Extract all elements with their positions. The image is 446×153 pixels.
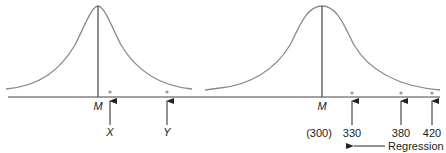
regression-label: Regression xyxy=(388,140,444,152)
left-normal-curve xyxy=(6,6,192,89)
point-330-label: 330 xyxy=(343,127,361,139)
left-mean-label: M xyxy=(93,100,103,112)
right-mean-label: M xyxy=(317,100,327,112)
point-420-label: 420 xyxy=(423,127,441,139)
point-330-dot xyxy=(350,91,353,94)
point-380-label: 380 xyxy=(392,127,410,139)
point-380-dot xyxy=(399,91,402,94)
regression-diagram: M X Y M (300) 330 380 420 Regression xyxy=(0,0,446,153)
point-x-label: X xyxy=(105,126,114,138)
point-420-dot xyxy=(430,91,433,94)
right-normal-curve xyxy=(220,6,440,90)
mean-value-label: (300) xyxy=(306,127,332,139)
curve-tail xyxy=(205,88,220,90)
point-y-label: Y xyxy=(163,126,171,138)
point-y-dot xyxy=(165,90,168,93)
point-x-dot xyxy=(108,90,111,93)
